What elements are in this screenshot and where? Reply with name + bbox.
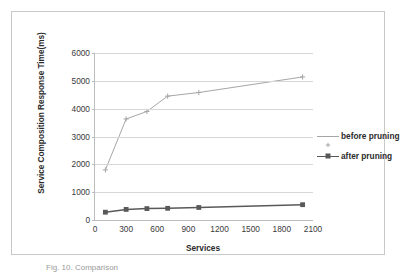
- y-tick-mark-1000: [92, 192, 95, 193]
- data-point-marker: [300, 202, 305, 207]
- figure-caption: Fig. 10. Comparison: [46, 263, 118, 272]
- legend-item-after-pruning[interactable]: after pruning: [317, 146, 395, 166]
- data-point-marker: [103, 167, 108, 172]
- plus-marker-icon: [326, 134, 331, 139]
- y-axis-title: Service Composition Response Time(ms): [36, 18, 46, 208]
- legend-item-before-pruning[interactable]: before pruning: [317, 126, 395, 146]
- legend-label: after pruning: [341, 151, 392, 161]
- gridline-y-5000: [95, 81, 313, 82]
- data-point-marker: [196, 90, 201, 95]
- y-tick-mark-4000: [92, 109, 95, 110]
- figure-container: Service Composition Response Time(ms) 01…: [0, 0, 403, 272]
- gridline-y-1000: [95, 192, 313, 193]
- y-tick-label: 1000: [72, 187, 90, 197]
- y-tick-label: 2000: [72, 159, 90, 169]
- x-tick-label: 1200: [210, 224, 228, 234]
- x-tick-label: 900: [182, 224, 196, 234]
- legend-swatch-1: [317, 152, 339, 161]
- x-tick-label: 1800: [273, 224, 291, 234]
- square-marker-icon: [326, 154, 331, 159]
- plot-area: 0100020003000400050006000030060090012001…: [94, 53, 313, 221]
- x-tick-label: 600: [150, 224, 164, 234]
- chart-frame: Service Composition Response Time(ms) 01…: [11, 11, 385, 255]
- y-tick-mark-0: [92, 220, 95, 221]
- x-tick-label: 300: [119, 224, 133, 234]
- y-tick-mark-2000: [92, 164, 95, 165]
- data-point-marker: [145, 206, 150, 211]
- y-tick-mark-5000: [92, 81, 95, 82]
- gridline-y-2000: [95, 164, 313, 165]
- data-point-marker: [124, 116, 129, 121]
- data-point-marker: [196, 205, 201, 210]
- y-tick-label: 0: [85, 215, 90, 225]
- gridline-y-4000: [95, 109, 313, 110]
- data-point-marker: [103, 210, 108, 215]
- x-tick-label: 1500: [241, 224, 259, 234]
- y-tick-label: 4000: [72, 104, 90, 114]
- legend-label: before pruning: [341, 131, 400, 141]
- x-axis-title: Services: [94, 243, 312, 253]
- data-point-marker: [124, 207, 129, 212]
- chart-legend: before pruningafter pruning: [317, 126, 395, 166]
- y-tick-mark-6000: [92, 53, 95, 54]
- y-tick-label: 3000: [72, 132, 90, 142]
- y-tick-label: 6000: [72, 48, 90, 58]
- x-tick-label: 0: [93, 224, 98, 234]
- data-point-marker: [165, 206, 170, 211]
- legend-swatch-0: [317, 132, 339, 141]
- y-tick-label: 5000: [72, 76, 90, 86]
- gridline-y-6000: [95, 53, 313, 54]
- series-line-1: [105, 205, 302, 213]
- y-tick-mark-3000: [92, 137, 95, 138]
- data-point-marker: [300, 74, 305, 79]
- x-tick-label: 2100: [304, 224, 322, 234]
- gridline-y-3000: [95, 137, 313, 138]
- series-line-0: [105, 77, 302, 170]
